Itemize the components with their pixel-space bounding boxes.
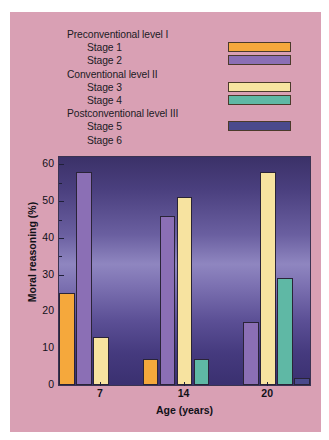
legend-row: Preconventional level I [10,28,321,41]
x-axis-label: Age (years) [58,404,311,416]
chart-legend: Preconventional level IStage 1Stage 2Con… [10,12,321,134]
y-axis-tick-mark [59,238,64,239]
y-axis-tick-mark [59,275,64,276]
y-axis-tick-mark [59,164,64,165]
y-axis-tick-label: 40 [18,231,54,243]
legend-item-label: Stage 5 [87,120,122,133]
legend-color-swatch [228,95,291,105]
y-axis-tick-label: 50 [18,194,54,206]
legend-row: Conventional level II [10,68,321,81]
legend-color-swatch [228,121,291,131]
bar [143,359,159,385]
x-axis-tick-label: 20 [247,387,287,399]
x-axis-tick-mark [184,382,185,386]
y-axis-minor-tick-mark [59,220,62,221]
bar [177,197,193,385]
bar [59,293,75,385]
legend-item-label: Stage 2 [87,54,122,67]
y-axis-tick-label: 10 [18,341,54,353]
bar [160,216,176,385]
y-axis-tick-mark [59,201,64,202]
bar [260,172,276,385]
y-axis-tick-mark [59,385,64,386]
legend-row: Stage 3 [10,81,321,94]
x-axis-tick-mark [100,382,101,386]
plot-area [58,156,311,386]
y-axis-tick-label: 20 [18,304,54,316]
legend-group-heading: Postconventional level III [67,107,178,120]
y-axis-minor-tick-mark [59,183,62,184]
x-axis-tick-label: 7 [80,387,120,399]
legend-group-heading: Preconventional level I [67,28,168,41]
bar [194,359,210,385]
y-axis-tick-label: 0 [18,378,54,390]
legend-color-swatch [228,82,291,92]
legend-color-swatch [228,42,291,52]
legend-row: Stage 5 [10,120,321,133]
bar [294,378,310,385]
legend-color-swatch [228,55,291,65]
bar [76,172,92,385]
figure-panel: Preconventional level IStage 1Stage 2Con… [10,12,321,432]
plot-area-wrapper: Moral reasoning (%) 0102030405060 71420 … [10,134,321,432]
bar [243,322,259,385]
legend-row: Stage 4 [10,94,321,107]
legend-item-label: Stage 3 [87,81,122,94]
x-axis-tick-label: 14 [164,387,204,399]
y-axis-tick-label: 60 [18,157,54,169]
legend-group-heading: Conventional level II [67,68,158,81]
legend-item-label: Stage 4 [87,94,122,107]
bar [277,278,293,385]
legend-item-label: Stage 1 [87,41,122,54]
legend-row: Stage 1 [10,41,321,54]
bar [93,337,109,385]
y-axis-minor-tick-mark [59,256,62,257]
legend-row: Stage 2 [10,54,321,67]
y-axis-tick-label: 30 [18,268,54,280]
x-axis-tick-labels: 71420 [58,387,311,403]
y-axis-tick-labels: 0102030405060 [18,156,54,386]
legend-row: Postconventional level III [10,107,321,120]
x-axis-tick-mark [267,382,268,386]
